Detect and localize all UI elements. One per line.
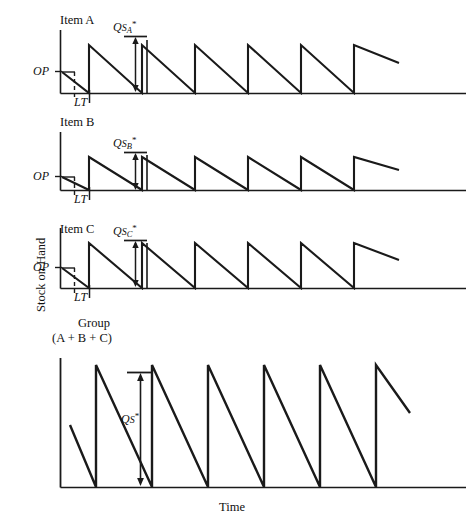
panel-title-group: Group [78, 316, 110, 330]
qs-superscript: * [132, 135, 137, 145]
panel-subtitle-group: (A + B + C) [52, 331, 112, 345]
order-quantity-arrowhead-up-item-c [132, 241, 138, 248]
figure-vector-layer [0, 0, 473, 529]
order-quantity-arrowhead-up-item-a [132, 37, 138, 44]
panel-title-item-a: Item A [60, 13, 94, 27]
x-axis-label: Time [219, 500, 245, 515]
lead-time-label-item-b: LT [74, 192, 87, 207]
order-quantity-arrowhead-down-item-c [132, 280, 138, 287]
order-quantity-label-item-b: QSB* [113, 135, 136, 151]
qs-base: Q [113, 136, 122, 150]
order-quantity-label-group: QS* [121, 411, 139, 427]
panel-title-item-b: Item B [60, 115, 94, 129]
order-quantity-arrowhead-up-item-b [132, 153, 138, 160]
lead-time-label-item-c: LT [74, 290, 87, 305]
stock-curve-item-b [62, 157, 399, 190]
order-quantity-label-item-c: QSC* [113, 223, 137, 239]
qs-superscript: * [135, 411, 140, 421]
stock-curve-item-c [62, 243, 399, 288]
order-quantity-arrowhead-up-group [137, 373, 144, 381]
qs-base: Q [113, 224, 122, 238]
qs-superscript: * [132, 19, 137, 29]
qs-superscript: * [132, 223, 137, 233]
qs-base: Q [113, 20, 122, 34]
order-quantity-arrowhead-down-item-b [132, 183, 138, 190]
order-quantity-arrowhead-down-group [137, 478, 144, 486]
order-quantity-label-item-a: QSA* [113, 19, 136, 35]
lead-time-label-item-a: LT [74, 95, 87, 110]
inventory-sawtooth-figure: Stock on Hand Item A OP LT QSA* [0, 0, 473, 529]
order-point-label-item-a: OP [33, 64, 49, 79]
panel-title-item-c: Item C [60, 222, 94, 236]
stock-curve-item-a [62, 45, 399, 93]
order-point-label-item-b: OP [33, 169, 49, 184]
order-point-label-item-c: OP [33, 260, 49, 275]
qs-base: Q [121, 412, 130, 426]
order-quantity-arrowhead-down-item-a [132, 85, 138, 92]
chart-item-a [55, 30, 466, 103]
